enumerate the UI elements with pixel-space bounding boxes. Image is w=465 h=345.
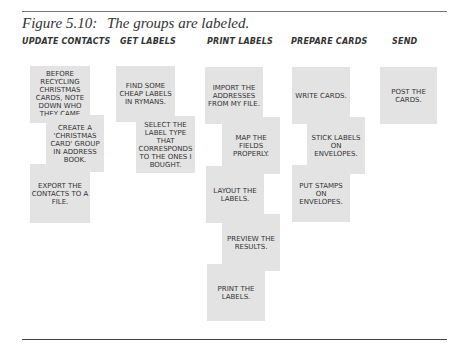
sticky-note-text: STICK LABELS ON ENVELOPES.: [308, 134, 364, 158]
sticky-note-text: PREVIEW THE RESULTS.: [223, 235, 279, 251]
sticky-note-text: CREATE A 'CHRISTMAS CARD' GROUP IN ADDRE…: [47, 124, 103, 164]
sticky-note-text: LAYOUT THE LABELS.: [207, 187, 263, 203]
figure-caption: Figure 5.10: The groups are labeled.: [22, 15, 249, 32]
sticky-note-text: WRITE CARDS.: [295, 92, 346, 100]
sticky-note-text: SELECT THE LABEL TYPE THAT CORRESPONDS T…: [137, 121, 194, 169]
group-header-get-labels: GET LABELS: [120, 37, 176, 46]
sticky-note-text: EXPORT THE CONTACTS TO A FILE.: [31, 182, 89, 206]
sticky-note-text: PUT STAMPS ON ENVELOPES.: [293, 182, 349, 206]
sticky-note: SELECT THE LABEL TYPE THAT CORRESPONDS T…: [136, 116, 195, 173]
sticky-note: WRITE CARDS.: [292, 67, 350, 124]
top-rule: [22, 11, 447, 12]
sticky-note-text: POST THE CARDS.: [381, 88, 436, 104]
sticky-note: PREVIEW THE RESULTS.: [222, 214, 280, 271]
sticky-note: EXPORT THE CONTACTS TO A FILE.: [30, 164, 90, 223]
sticky-note-text: FIND SOME CHEAP LABELS IN RYMANS.: [117, 82, 174, 106]
sticky-note: FIND SOME CHEAP LABELS IN RYMANS.: [116, 66, 175, 122]
group-header-send: SEND: [392, 37, 417, 46]
sticky-note: IMPORT THE ADDRESSES FROM MY FILE.: [205, 67, 263, 124]
figure-caption-text: The groups are labeled.: [107, 15, 249, 31]
group-header-print-labels: PRINT LABELS: [207, 37, 273, 46]
sticky-note-text: PRINT THE LABELS.: [208, 285, 264, 301]
group-header-update-contacts: UPDATE CONTACTS: [22, 37, 110, 46]
sticky-note-text: IMPORT THE ADDRESSES FROM MY FILE.: [206, 84, 262, 108]
bottom-rule: [22, 339, 447, 340]
sticky-note: PUT STAMPS ON ENVELOPES.: [292, 165, 350, 222]
sticky-note-text: MAP THE FIELDS PROPERLY.: [223, 134, 279, 158]
figure-label: Figure 5.10:: [22, 15, 97, 31]
sticky-note: POST THE CARDS.: [380, 67, 437, 124]
group-header-prepare-cards: PREPARE CARDS: [291, 37, 367, 46]
sticky-note: PRINT THE LABELS.: [207, 264, 265, 321]
